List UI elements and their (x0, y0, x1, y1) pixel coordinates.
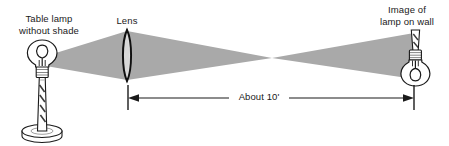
image-lamp-socket (409, 50, 421, 60)
label-lens: Lens (100, 15, 154, 27)
arrowhead-right (403, 94, 414, 101)
beam-cone-converging (127, 31, 272, 80)
optics-diagram: Table lamp without shade Lens Image of l… (0, 0, 449, 146)
beam-cone-object-side (46, 31, 127, 80)
lamp-bulb (27, 40, 57, 67)
label-distance: About 10' (229, 91, 289, 103)
label-image-on-wall: Image of lamp on wall (366, 4, 448, 27)
light-beam (46, 31, 414, 80)
arrowhead-left (128, 94, 139, 101)
lamp-socket (36, 67, 48, 78)
beam-cone-image-side (272, 33, 414, 79)
lamp-stem (38, 77, 47, 131)
converging-lens (123, 30, 131, 81)
image-lamp-bulb (401, 60, 430, 86)
source-lamp (22, 40, 62, 143)
image-lamp-stem (411, 30, 419, 51)
label-table-lamp: Table lamp without shade (2, 13, 96, 36)
